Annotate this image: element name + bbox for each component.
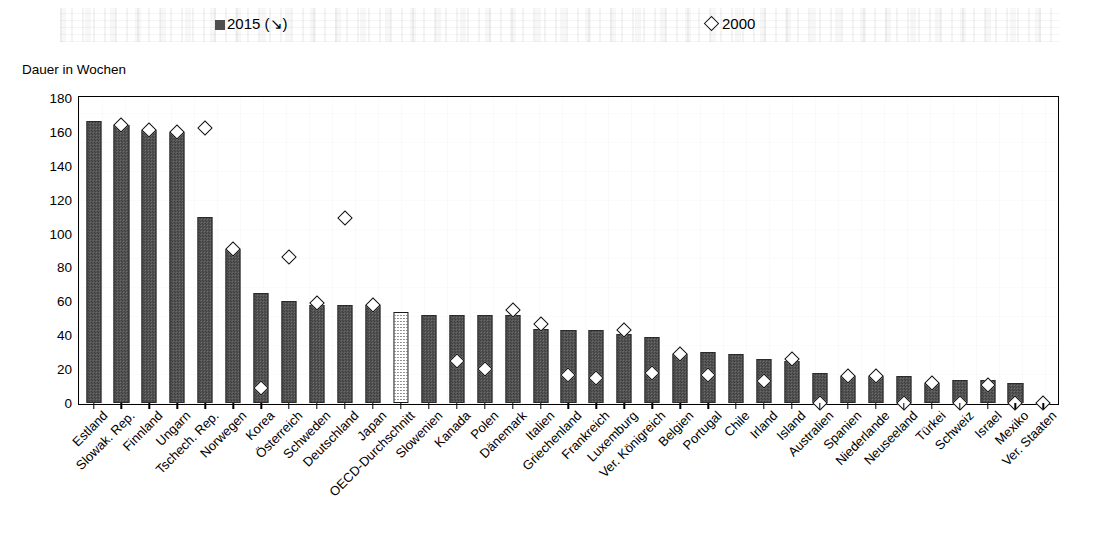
bar-2015 — [114, 125, 129, 404]
y-axis-tick-label: 160 — [49, 124, 72, 139]
marker-2000 — [198, 120, 214, 136]
x-axis-category-labels: EstlandSlowak. Rep.FinnlandUngarnTschech… — [80, 408, 1058, 528]
filled-square-icon — [215, 20, 225, 30]
bar-2015 — [421, 315, 436, 403]
chart-category-slot — [1029, 98, 1057, 404]
bar-2015 — [198, 217, 213, 404]
legend-label-2000: 2000 — [722, 15, 755, 32]
chart-category-slot — [275, 98, 303, 404]
bar-2015 — [282, 301, 297, 403]
y-axis-tick-label: 40 — [57, 328, 72, 343]
y-axis-tick-label: 180 — [49, 90, 72, 105]
chart-category-slot — [303, 98, 331, 404]
chart-category-slot — [527, 98, 555, 404]
plot-series-container — [80, 98, 1058, 404]
y-axis-tick-label: 0 — [64, 396, 72, 411]
chart-category-slot — [163, 98, 191, 404]
chart-category-slot — [191, 98, 219, 404]
chart-category-slot — [219, 98, 247, 404]
legend-label-2015: 2015 (↘) — [227, 15, 288, 33]
chart-category-slot — [582, 98, 610, 404]
chart-category-slot — [862, 98, 890, 404]
bar-2015 — [309, 305, 324, 404]
chart-category-slot — [834, 98, 862, 404]
legend-item-2000: 2000 — [706, 15, 755, 32]
chart-legend: 2015 (↘) 2000 — [60, 8, 1060, 44]
chart-category-slot — [694, 98, 722, 404]
y-axis-tick-label: 80 — [57, 260, 72, 275]
chart-category-slot — [974, 98, 1002, 404]
chart-category-slot — [750, 98, 778, 404]
chart-category-slot — [415, 98, 443, 404]
y-axis-tick-label: 20 — [57, 362, 72, 377]
x-axis-category-label: Irland — [747, 408, 781, 442]
chart-category-slot — [778, 98, 806, 404]
legend-item-2015: 2015 (↘) — [215, 15, 288, 33]
bar-2015 — [86, 121, 101, 403]
bar-2015 — [477, 315, 492, 403]
bar-2015 — [365, 305, 380, 404]
bar-2015 — [337, 305, 352, 404]
y-axis-tick-label: 140 — [49, 158, 72, 173]
y-axis-tick-label: 60 — [57, 294, 72, 309]
open-diamond-icon — [704, 16, 720, 32]
chart-category-slot — [359, 98, 387, 404]
chart-category-slot — [331, 98, 359, 404]
chart-category-slot — [1002, 98, 1030, 404]
chart-category-slot — [135, 98, 163, 404]
bar-2015 — [617, 334, 632, 404]
chart-category-slot — [80, 98, 108, 404]
chart-screenshot: 2015 (↘) 2000 Dauer in Wochen 0204060801… — [0, 0, 1095, 539]
chart-category-slot — [722, 98, 750, 404]
marker-2000 — [337, 210, 353, 226]
chart-category-slot — [666, 98, 694, 404]
x-axis-category-label: Chile — [721, 408, 753, 440]
chart-category-slot — [108, 98, 136, 404]
chart-category-slot — [387, 98, 415, 404]
y-axis-tick-label: 120 — [49, 192, 72, 207]
bar-2015 — [142, 130, 157, 404]
chart-category-slot — [610, 98, 638, 404]
chart-category-slot — [471, 98, 499, 404]
chart-category-slot — [806, 98, 834, 404]
chart-category-slot — [890, 98, 918, 404]
chart-category-slot — [638, 98, 666, 404]
chart-category-slot — [499, 98, 527, 404]
bar-2015 — [729, 354, 744, 403]
y-axis-tick-label: 100 — [49, 226, 72, 241]
y-axis-tick-labels: 020406080100120140160180 — [0, 96, 72, 405]
chart-category-slot — [247, 98, 275, 404]
y-axis-title: Dauer in Wochen — [22, 62, 126, 77]
legend-background-texture — [60, 8, 1060, 42]
bar-2015 — [170, 132, 185, 404]
chart-category-slot — [555, 98, 583, 404]
chart-category-slot — [918, 98, 946, 404]
bar-oecd-average — [393, 312, 408, 404]
bar-2015 — [226, 249, 241, 404]
chart-category-slot — [443, 98, 471, 404]
marker-2000 — [281, 250, 297, 266]
chart-category-slot — [946, 98, 974, 404]
bar-2015 — [784, 361, 799, 403]
bar-2015 — [589, 330, 604, 403]
bar-2015 — [505, 315, 520, 403]
bar-2015 — [533, 329, 548, 404]
